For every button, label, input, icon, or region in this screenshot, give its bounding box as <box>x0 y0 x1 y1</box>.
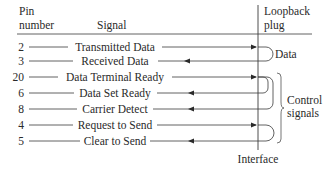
pin-number: 3 <box>18 55 24 67</box>
signal-label: Carrier Detect <box>82 103 148 115</box>
signal-label: Received Data <box>81 55 148 67</box>
signal-header: Signal <box>97 19 126 32</box>
pin-number: 8 <box>18 103 24 115</box>
control-group-label-line1: Control <box>287 94 322 106</box>
control-group-label-line2: signals <box>287 107 319 120</box>
plug-header-line1: Loopback <box>264 5 310 18</box>
pin-header-line1: Pin <box>19 5 35 17</box>
pin-number: 2 <box>18 41 24 53</box>
signal-label: Transmitted Data <box>75 41 155 53</box>
pin-header-line2: number <box>19 19 54 31</box>
data-loop <box>258 47 273 61</box>
signal-label: Clear to Send <box>84 135 147 147</box>
loopback-plug-diagram: Pin number Signal Loopback plug 2 Transm… <box>0 0 336 173</box>
pin-number: 5 <box>18 135 24 147</box>
data-group-label: Data <box>275 48 297 60</box>
pin-number: 4 <box>18 119 24 131</box>
plug-header-line2: plug <box>264 19 285 32</box>
pin-number: 6 <box>18 87 24 99</box>
signal-label: Data Set Ready <box>79 87 151 100</box>
control-bracket <box>277 73 284 143</box>
pin-number: 20 <box>13 71 25 83</box>
signal-label: Request to Send <box>78 119 153 132</box>
signal-label: Data Terminal Ready <box>66 71 164 84</box>
rts-cts-loop <box>258 125 274 141</box>
interface-label: Interface <box>238 153 279 165</box>
